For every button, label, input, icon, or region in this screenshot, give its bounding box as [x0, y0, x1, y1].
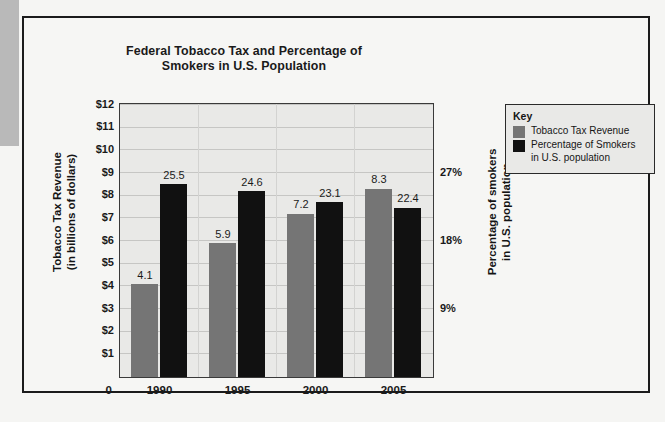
- legend-label-line-1: Percentage of Smokers: [531, 139, 636, 150]
- bar-value-label-smoker-percentage-2000: 23.1: [311, 187, 350, 199]
- left-y-axis-tick-6: $6: [74, 234, 114, 246]
- left-y-axis-title-line-1: Tobacco Tax Revenue: [50, 117, 64, 307]
- right-y-axis-tick-18: 18%: [440, 234, 478, 246]
- left-y-axis: $12$11$10$9$8$7$6$5$4$3$2$1: [72, 18, 114, 422]
- chart-title: Federal Tobacco Tax and Percentage of Sm…: [84, 44, 404, 74]
- right-y-axis-title-line-1: Percentage of smokers: [485, 117, 499, 307]
- legend-swatch-percentage-of-smokers: [513, 140, 525, 152]
- bar-smoker-percentage-2000: [316, 202, 343, 377]
- left-y-axis-tick-7: $7: [74, 211, 114, 223]
- bar-smoker-percentage-1995: [238, 191, 265, 377]
- left-y-axis-tick-9: $9: [74, 166, 114, 178]
- bar-tax-revenue-2005: [365, 189, 392, 377]
- plot-area: [119, 103, 434, 378]
- x-axis-tick-1995: 1995: [199, 384, 277, 396]
- legend-item-percentage-of-smokers: Percentage of Smokers in U.S. population: [513, 139, 647, 164]
- bar-value-label-tax-revenue-1995: 5.9: [204, 228, 243, 240]
- bar-value-label-tax-revenue-2005: 8.3: [360, 173, 399, 185]
- right-y-axis: 27%18%9%: [440, 18, 480, 422]
- legend-key-box: Key Tobacco Tax Revenue Percentage of Sm…: [505, 104, 655, 174]
- x-axis-tick-2000: 2000: [277, 384, 355, 396]
- bar-value-label-smoker-percentage-1990: 25.5: [155, 169, 194, 181]
- left-y-axis-tick-3: $3: [74, 302, 114, 314]
- bar-value-label-tax-revenue-1990: 4.1: [126, 269, 165, 281]
- bar-value-label-smoker-percentage-1995: 24.6: [233, 176, 272, 188]
- page-margin-shadow: [0, 0, 19, 146]
- bar-tax-revenue-1990: [131, 284, 158, 377]
- right-y-axis-tick-9: 9%: [440, 302, 478, 314]
- left-y-axis-tick-12: $12: [74, 98, 114, 110]
- left-y-axis-tick-5: $5: [74, 256, 114, 268]
- legend-label-tobacco-tax-revenue: Tobacco Tax Revenue: [531, 125, 629, 138]
- left-y-axis-tick-8: $8: [74, 188, 114, 200]
- left-y-axis-tick-11: $11: [74, 120, 114, 132]
- bar-smoker-percentage-2005: [394, 208, 421, 377]
- bar-tax-revenue-2000: [287, 214, 314, 377]
- gridline-vertical: [354, 104, 355, 377]
- right-y-axis-tick-27: 27%: [440, 166, 478, 178]
- bar-tax-revenue-1995: [209, 243, 236, 377]
- left-y-axis-tick-2: $2: [74, 324, 114, 336]
- legend-label-line-2: in U.S. population: [531, 152, 610, 163]
- bar-value-label-tax-revenue-2000: 7.2: [282, 198, 321, 210]
- chart-frame: Federal Tobacco Tax and Percentage of Sm…: [22, 16, 650, 393]
- bar-smoker-percentage-1990: [160, 184, 187, 377]
- x-axis-tick-1990: 1990: [121, 384, 199, 396]
- bar-value-label-smoker-percentage-2005: 22.4: [389, 192, 428, 204]
- left-y-axis-zero-tick: 0: [82, 384, 112, 396]
- chart-title-line-2: Smokers in U.S. Population: [84, 59, 404, 74]
- left-y-axis-tick-4: $4: [74, 279, 114, 291]
- left-y-axis-tick-1: $1: [74, 347, 114, 359]
- legend-swatch-tobacco-tax-revenue: [513, 126, 525, 138]
- legend-item-tobacco-tax-revenue: Tobacco Tax Revenue: [513, 125, 647, 138]
- chart-title-line-1: Federal Tobacco Tax and Percentage of: [84, 44, 404, 59]
- x-axis-tick-2005: 2005: [355, 384, 433, 396]
- left-y-axis-tick-10: $10: [74, 143, 114, 155]
- legend-title: Key: [513, 110, 647, 122]
- gridline-vertical: [276, 104, 277, 377]
- left-y-axis-title: Tobacco Tax Revenue (in billions of doll…: [50, 117, 78, 307]
- legend-label-percentage-of-smokers: Percentage of Smokers in U.S. population: [531, 139, 636, 164]
- gridline-vertical: [198, 104, 199, 377]
- left-y-axis-title-line-2: (in billions of dollars): [64, 117, 78, 307]
